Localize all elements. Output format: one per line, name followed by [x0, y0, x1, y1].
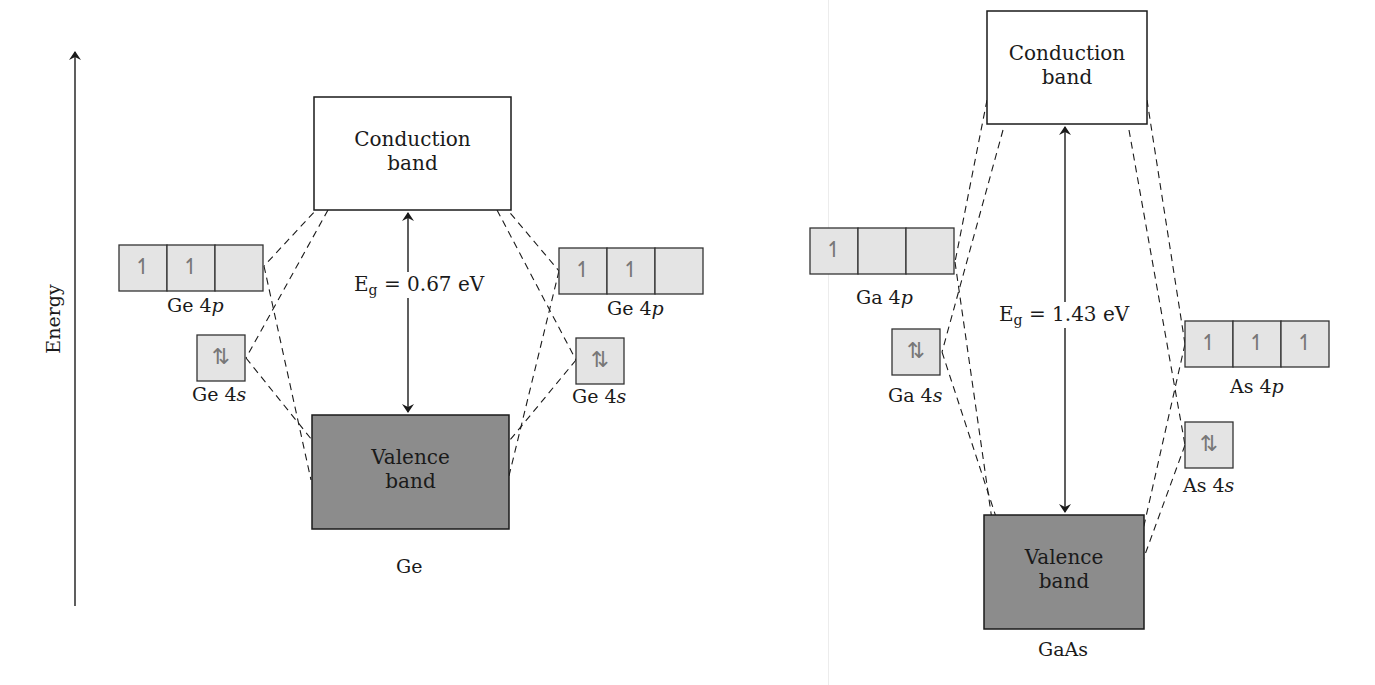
ge-conduction-band-label: Conduction band: [314, 127, 511, 175]
dashed-line: [1147, 100, 1185, 344]
orbital-cell: [655, 248, 703, 294]
orbital-label-text: Ge 4: [607, 297, 652, 319]
orbital-label: As 4s: [1183, 476, 1234, 495]
electron-up-icon: ↿: [167, 256, 215, 278]
valence-label-line2: band: [984, 569, 1144, 593]
electron-up-icon: ↿: [119, 256, 167, 278]
orbital-label-text: Ga 4: [856, 286, 901, 308]
orbital-label-text: Ga 4: [888, 384, 933, 406]
orbital-label-subshell: p: [901, 286, 913, 308]
electron-up-icon: ↿: [1233, 332, 1281, 354]
valence-label-line2: band: [312, 469, 509, 493]
orbital-label-subshell: s: [933, 384, 943, 406]
eg-subscript: g: [369, 282, 378, 298]
valence-label-line1: Valence: [984, 545, 1144, 569]
electron-pair-icon: ⇅: [1185, 433, 1233, 455]
orbital-label-text: As 4: [1183, 474, 1225, 496]
orbital-label: Ge 4p: [607, 299, 664, 318]
orbital-label-subshell: p: [652, 297, 664, 319]
valence-label-line1: Valence: [312, 445, 509, 469]
orbital-label: Ga 4p: [856, 288, 913, 307]
electron-up-icon: ↿: [1185, 332, 1233, 354]
dashed-line: [510, 360, 576, 440]
orbital-label-subshell: s: [237, 383, 247, 405]
gaas-material-label: GaAs: [1038, 640, 1088, 659]
dashed-line: [264, 266, 311, 480]
gaas-band-gap-label: Eg = 1.43 eV: [997, 302, 1131, 328]
conduction-label-line1: Conduction: [987, 41, 1147, 65]
band-diagram-figure: Energy Conduction band Valence band Ge E…: [0, 0, 1375, 685]
eg-symbol: E: [999, 302, 1014, 326]
ge-material-label: Ge: [396, 557, 422, 576]
ge-band-gap-label: Eg = 0.67 eV: [352, 272, 486, 298]
orbital-label-text: Ge 4: [167, 294, 212, 316]
orbital-label: Ge 4p: [167, 296, 224, 315]
eg-subscript: g: [1014, 312, 1023, 328]
orbital-label-subshell: s: [617, 385, 627, 407]
orbital-label: Ge 4s: [572, 387, 626, 406]
gaas-conduction-band-label: Conduction band: [987, 41, 1147, 89]
orbital-label-text: Ge 4: [192, 383, 237, 405]
electron-up-icon: ↿: [810, 239, 858, 261]
orbital-label: Ga 4s: [888, 386, 942, 405]
electron-up-icon: ↿: [1281, 332, 1329, 354]
orbital-label-text: Ge 4: [572, 385, 617, 407]
dashed-line: [955, 262, 992, 520]
electron-pair-icon: ⇅: [892, 340, 940, 362]
dashed-line: [955, 100, 987, 262]
orbital-label: Ge 4s: [192, 385, 246, 404]
orbital-label-subshell: p: [212, 294, 224, 316]
orbital-label-subshell: s: [1225, 474, 1235, 496]
conduction-label-line2: band: [987, 65, 1147, 89]
orbital-label: As 4p: [1230, 377, 1284, 396]
electron-pair-icon: ⇅: [576, 349, 624, 371]
dashed-line: [942, 352, 997, 520]
orbital-cell: [906, 228, 954, 274]
ge-valence-band-label: Valence band: [312, 445, 509, 493]
orbital-cell: [858, 228, 906, 274]
electron-up-icon: ↿: [607, 259, 655, 281]
energy-axis-label: Energy: [42, 284, 64, 353]
eg-symbol: E: [354, 272, 369, 296]
electron-pair-icon: ⇅: [197, 346, 245, 368]
orbital-label-text: As 4: [1230, 375, 1272, 397]
diagram-canvas: [0, 0, 1375, 685]
band-and-orbital-boxes: [119, 11, 1329, 629]
dashed-line: [508, 271, 559, 480]
conduction-label-line2: band: [314, 151, 511, 175]
electron-up-icon: ↿: [559, 259, 607, 281]
dashed-line: [246, 358, 312, 440]
eg-value: = 0.67 eV: [384, 272, 484, 296]
orbital-label-subshell: p: [1272, 375, 1284, 397]
dashed-line: [1129, 130, 1185, 445]
conduction-label-line1: Conduction: [314, 127, 511, 151]
gaas-valence-band-label: Valence band: [984, 545, 1144, 593]
orbital-cell: [215, 245, 263, 291]
eg-value: = 1.43 eV: [1029, 302, 1129, 326]
